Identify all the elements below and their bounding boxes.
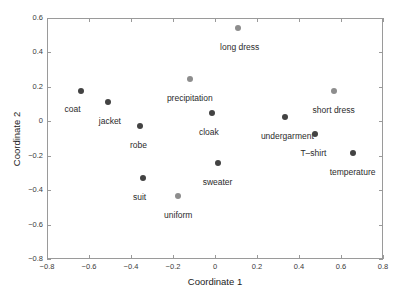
y-axis-tick-label: −0.8 [21,255,43,263]
x-axis-tick-label: 0.4 [294,263,304,271]
x-axis-tick-top [383,18,384,22]
y-axis-tick [47,156,51,157]
data-point-label: precipitation [167,94,213,103]
data-point-label: undergarment [261,132,314,141]
data-point [350,150,356,156]
x-axis-tick [257,255,258,259]
data-point-label: uniform [164,211,192,220]
data-point-label: sweater [203,178,233,187]
x-axis-tick-top [341,18,342,22]
x-axis-tick-label: 0 [213,263,217,271]
data-point [235,25,241,31]
y-axis-tick-label: 0.2 [21,83,43,91]
data-point [78,88,84,94]
data-point-label: robe [130,141,147,150]
y-axis-tick-right [379,190,383,191]
data-point-label: suit [133,193,146,202]
x-axis-title: Coordinate 1 [188,277,242,287]
data-point [312,131,318,137]
y-axis-tick-right [379,52,383,53]
x-axis-tick-label: 0.8 [378,263,388,271]
y-axis-tick [47,52,51,53]
y-axis-tick-label: 0.4 [21,49,43,57]
y-axis-title: Coordinate 2 [12,111,22,165]
data-point-label: cloak [199,128,219,137]
y-axis-tick-label: −0.4 [21,186,43,194]
x-axis-tick-label: −0.6 [82,263,97,271]
y-axis-tick-right [379,121,383,122]
x-axis-tick [383,255,384,259]
data-point [140,175,146,181]
x-axis-tick-label: 0.2 [252,263,262,271]
x-axis-tick-top [173,18,174,22]
y-axis-tick [47,225,51,226]
data-point [175,193,181,199]
data-point-label: jacket [99,117,121,126]
y-axis-tick-label: −0.6 [21,221,43,229]
x-axis-tick-top [131,18,132,22]
data-point-label: temperature [330,168,376,177]
y-axis-tick-right [379,225,383,226]
data-point [187,76,193,82]
y-axis-tick-right [379,156,383,157]
x-axis-tick [341,255,342,259]
x-axis-tick-top [257,18,258,22]
y-axis-tick-label: −0.2 [21,152,43,160]
data-point [105,99,111,105]
y-axis-tick [47,18,51,19]
y-axis-tick-right [379,259,383,260]
y-axis-tick-label: 0 [21,118,43,126]
data-point [209,110,215,116]
data-point-label: coat [65,105,81,114]
x-axis-tick-top [299,18,300,22]
x-axis-tick-top [215,18,216,22]
y-axis-tick-right [379,18,383,19]
x-axis-tick-label: 0.6 [336,263,346,271]
x-axis-tick [89,255,90,259]
x-axis-tick [299,255,300,259]
y-axis-tick [47,190,51,191]
x-axis-tick-label: −0.4 [124,263,139,271]
y-axis-tick [47,121,51,122]
y-axis-tick [47,259,51,260]
data-point-label: short dress [313,106,355,115]
plot-area [47,18,383,259]
scatter-plot-figure: −0.8−0.6−0.4−0.200.20.40.60.8−0.8−0.6−0.… [0,0,413,295]
x-axis-tick-top [89,18,90,22]
data-point [331,88,337,94]
y-axis-tick-right [379,87,383,88]
x-axis-tick [215,255,216,259]
x-axis-tick-label: −0.2 [166,263,181,271]
x-axis-tick [131,255,132,259]
x-axis-tick [173,255,174,259]
x-axis-tick-label: −0.8 [40,263,55,271]
data-point [137,123,143,129]
data-point [282,114,288,120]
data-point [215,160,221,166]
data-point-label: long dress [220,43,259,52]
data-point-label: T–shirt [300,149,326,158]
y-axis-tick-label: 0.6 [21,14,43,22]
y-axis-tick [47,87,51,88]
